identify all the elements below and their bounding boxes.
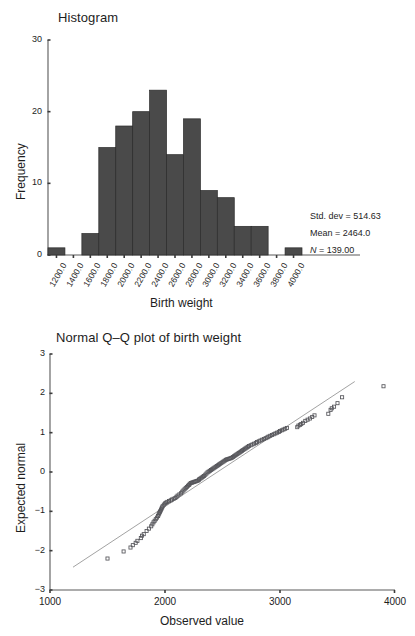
qq-x-tick: 3000 xyxy=(260,596,300,607)
qq-y-tick: −2 xyxy=(20,545,45,555)
histogram-y-tick: 20 xyxy=(18,106,42,116)
stat-n: N = 139.00 xyxy=(310,245,354,255)
stat-std-dev: Std. dev = 514.63 xyxy=(310,211,381,221)
histogram-y-tick: 30 xyxy=(18,34,42,44)
qq-plot-area xyxy=(0,318,415,636)
stat-mean: Mean = 2464.0 xyxy=(310,228,370,238)
qq-x-tick: 1000 xyxy=(30,596,70,607)
histogram-y-tick: 0 xyxy=(18,249,42,259)
histogram-y-tick: 10 xyxy=(18,177,42,187)
qq-y-tick: −3 xyxy=(20,584,45,594)
qq-y-tick: 1 xyxy=(20,427,45,437)
stat-n-value: = 139.00 xyxy=(317,245,355,255)
qq-y-tick: 2 xyxy=(20,387,45,397)
qq-panel: Normal Q–Q plot of birth weight Expected… xyxy=(0,318,415,636)
qq-y-tick: 3 xyxy=(20,348,45,358)
qq-x-tick: 4000 xyxy=(375,596,415,607)
qq-x-tick: 2000 xyxy=(145,596,185,607)
histogram-panel: Histogram Frequency Birth weight 0102030… xyxy=(0,0,415,318)
qq-y-tick: 0 xyxy=(20,466,45,476)
qq-y-tick: −1 xyxy=(20,505,45,515)
